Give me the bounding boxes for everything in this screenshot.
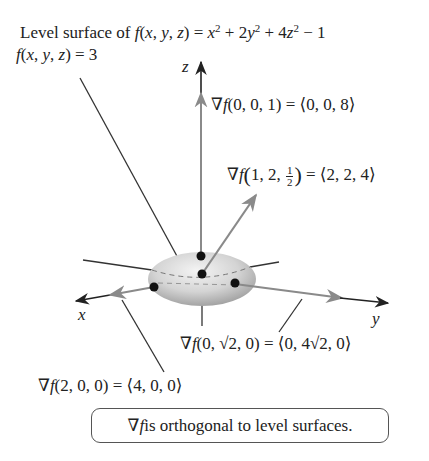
y-axis-label: y xyxy=(372,310,380,327)
gradient-arrow-x xyxy=(110,287,154,295)
point-2-0-0 xyxy=(150,283,159,292)
point-1-2-half xyxy=(198,270,207,279)
negative-x-axis xyxy=(250,262,279,267)
point-0-sqrt2-0 xyxy=(231,279,240,288)
gradient-label-0-0-1: ∇f(0, 0, 1) = ⟨0, 0, 8⟩ xyxy=(211,96,355,113)
gradient-label-0-sqrt2-0: ∇f(0, √2, 0) = ⟨0, 4√2, 0⟩ xyxy=(180,335,351,352)
z-axis-label: z xyxy=(182,58,189,75)
y-axis xyxy=(340,298,388,303)
negative-y-axis xyxy=(83,260,152,270)
leader-grad-2-0-0 xyxy=(122,300,164,372)
level-label: f(x, y, z) = 3 xyxy=(16,46,97,63)
x-axis xyxy=(76,295,110,301)
gradient-arrow-y xyxy=(235,284,342,298)
nabla-symbol: ∇ xyxy=(211,95,223,114)
title-prefix: Level surface of xyxy=(20,23,135,42)
figure-title: Level surface of f(x, y, z) = x2 + 2y2 +… xyxy=(20,24,326,41)
level-label-leader xyxy=(80,78,178,258)
orthogonality-note: ∇f is orthogonal to level surfaces. xyxy=(91,408,389,443)
title-function: f xyxy=(135,23,140,42)
point-0-0-1 xyxy=(197,252,206,261)
gradient-label-2-0-0: ∇f(2, 0, 0) = ⟨4, 0, 0⟩ xyxy=(38,377,182,394)
leader-grad-0-sqrt2-0 xyxy=(279,299,302,332)
x-axis-label: x xyxy=(78,306,86,323)
fraction-one-half: 12 xyxy=(286,165,294,188)
gradient-label-1-2-half: ∇f(1, 2, 12) = ⟨2, 2, 4⟩ xyxy=(227,164,376,188)
